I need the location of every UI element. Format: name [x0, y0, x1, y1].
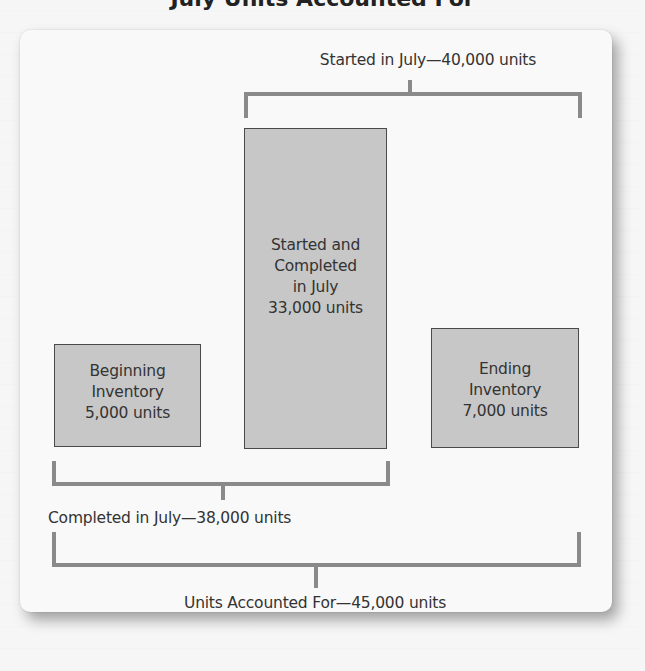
completed-in-july-label: Completed in July—38,000 units — [48, 509, 348, 527]
ending-inventory-box: Ending Inventory 7,000 units — [431, 328, 579, 448]
beginning-inventory-line1: Beginning — [89, 361, 165, 382]
figure-title: July Units Accounted For — [0, 0, 645, 11]
completed-bracket-tick — [221, 485, 225, 500]
beginning-inventory-box: Beginning Inventory 5,000 units — [54, 344, 201, 447]
beginning-inventory-units: 5,000 units — [85, 403, 170, 424]
started-completed-line2: Completed — [274, 256, 357, 277]
ending-inventory-line1: Ending — [479, 359, 531, 380]
ending-inventory-units: 7,000 units — [462, 401, 547, 422]
started-in-july-bracket — [244, 92, 582, 118]
beginning-inventory-line2: Inventory — [91, 382, 163, 403]
started-completed-units: 33,000 units — [268, 298, 363, 319]
started-completed-line1: Started and — [271, 235, 360, 256]
started-completed-line3: in July — [293, 277, 339, 298]
started-in-july-label: Started in July—40,000 units — [258, 51, 598, 69]
units-accounted-for-label: Units Accounted For—45,000 units — [150, 594, 480, 612]
completed-in-july-bracket — [52, 461, 390, 486]
started-and-completed-box: Started and Completed in July 33,000 uni… — [244, 128, 387, 449]
units-accounted-bracket-tick — [314, 566, 318, 588]
ending-inventory-line2: Inventory — [469, 380, 541, 401]
units-accounted-for-bracket — [52, 532, 581, 567]
